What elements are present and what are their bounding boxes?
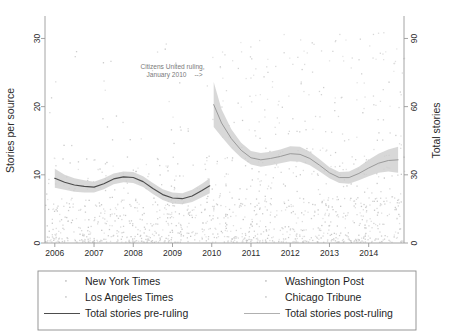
scatter-point (359, 225, 360, 226)
scatter-point (319, 194, 320, 195)
scatter-point (172, 230, 173, 231)
scatter-point (103, 62, 104, 63)
y-tick-label-left: 20 (32, 102, 42, 112)
scatter-point (267, 238, 268, 239)
scatter-point (252, 226, 253, 227)
scatter-point (353, 201, 354, 202)
scatter-point (325, 131, 326, 132)
scatter-point (260, 184, 261, 185)
scatter-point (306, 241, 307, 242)
scatter-point (214, 237, 215, 238)
scatter-point (339, 235, 340, 236)
scatter-point (113, 166, 114, 167)
legend-item[interactable]: Chicago Tribune (265, 291, 362, 303)
scatter-point (312, 204, 313, 205)
scatter-point (283, 239, 284, 240)
y-tick-label-left: 0 (32, 240, 42, 245)
scatter-point (272, 87, 273, 88)
scatter-point (314, 215, 315, 216)
legend-item[interactable]: Total stories pre-ruling (44, 307, 188, 319)
scatter-point (278, 241, 279, 242)
scatter-point (351, 67, 352, 68)
scatter-point (188, 233, 189, 234)
series-1-group (55, 169, 210, 204)
scatter-point (365, 239, 366, 240)
scatter-point (275, 127, 276, 128)
scatter-point (276, 210, 277, 211)
scatter-point (99, 202, 100, 203)
scatter-point (318, 175, 319, 176)
scatter-point (239, 206, 240, 207)
scatter-point (241, 51, 242, 52)
scatter-point (195, 207, 196, 208)
scatter-point (346, 169, 347, 170)
scatter-point (374, 240, 375, 241)
scatter-point (371, 227, 372, 228)
scatter-point (88, 239, 89, 240)
scatter-point (348, 232, 349, 233)
scatter-point (50, 239, 51, 240)
scatter-point (249, 129, 250, 130)
scatter-point (81, 239, 82, 240)
scatter-point (289, 58, 290, 59)
legend-item[interactable]: New York Times (65, 275, 160, 287)
scatter-point (271, 237, 272, 238)
scatter-point (350, 198, 351, 199)
scatter-point (342, 216, 343, 217)
scatter-point (187, 209, 188, 210)
scatter-point (171, 223, 172, 224)
scatter-point (401, 201, 402, 202)
scatter-point (71, 199, 72, 200)
scatter-point (207, 196, 208, 197)
scatter-point (341, 97, 342, 98)
scatter-point (318, 209, 319, 210)
scatter-point (259, 40, 260, 41)
scatter-point (303, 202, 304, 203)
scatter-point (135, 200, 136, 201)
legend-item[interactable]: Total stories post-ruling (244, 307, 393, 319)
scatter-point (364, 96, 365, 97)
scatter-point (188, 212, 189, 213)
scatter-point (159, 165, 160, 166)
scatter-point (386, 200, 387, 201)
scatter-point (250, 77, 251, 78)
scatter-point (258, 203, 259, 204)
scatter-point (215, 229, 216, 230)
scatter-point (375, 238, 376, 239)
scatter-point (292, 64, 293, 65)
scatter-point (165, 49, 166, 50)
scatter-point (355, 159, 356, 160)
scatter-point (367, 188, 368, 189)
scatter-point (332, 198, 333, 199)
scatter-point (178, 223, 179, 224)
scatter-point (71, 198, 72, 199)
scatter-point (69, 207, 70, 208)
scatter-point (242, 240, 243, 241)
legend-item-label: Total stories post-ruling (285, 307, 393, 319)
x-tick-label: 2006 (45, 248, 64, 258)
scatter-point (384, 239, 385, 240)
scatter-point (245, 233, 246, 234)
scatter-point (319, 229, 320, 230)
scatter-point (127, 237, 128, 238)
scatter-point (167, 170, 168, 171)
scatter-point (196, 215, 197, 216)
scatter-point (89, 231, 90, 232)
scatter-point (117, 204, 118, 205)
scatter-point (356, 240, 357, 241)
scatter-point (334, 233, 335, 234)
scatter-point (206, 157, 207, 158)
legend-item[interactable]: Washington Post (265, 275, 364, 287)
scatter-point (300, 174, 301, 175)
scatter-point (158, 234, 159, 235)
scatter-point (79, 234, 80, 235)
scatter-point (386, 198, 387, 199)
legend-item[interactable]: Los Angeles Times (65, 291, 173, 303)
scatter-point (368, 235, 369, 236)
scatter-point (261, 180, 262, 181)
scatter-point (365, 207, 366, 208)
scatter-point (265, 226, 266, 227)
scatter-point (278, 104, 279, 105)
scatter-point (284, 34, 285, 35)
scatter-point (234, 240, 235, 241)
